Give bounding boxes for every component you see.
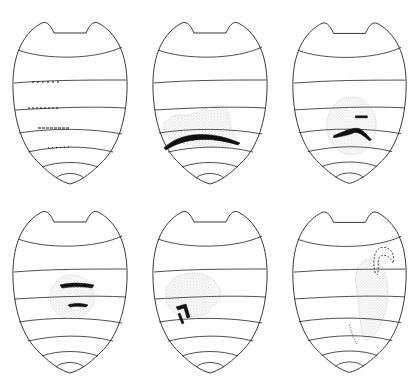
panel-6-coiled-lesion bbox=[280, 189, 419, 378]
stipple-patch bbox=[327, 97, 377, 155]
panel-3-chevron-lesion bbox=[280, 0, 419, 189]
stipple-patch bbox=[50, 275, 94, 319]
lower-dash-lesion bbox=[68, 304, 88, 308]
panel-5-hook-lesion bbox=[140, 189, 280, 378]
panel-2-arc-lesion bbox=[140, 0, 280, 189]
panel-1-tick-marks bbox=[0, 0, 140, 189]
upper-dash-lesion bbox=[355, 116, 367, 118]
panel-4-dash-lesions bbox=[0, 189, 140, 378]
